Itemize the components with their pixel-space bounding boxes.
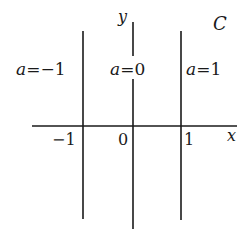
diagram-lines xyxy=(0,0,249,245)
region-label: C xyxy=(213,15,227,33)
param-value: −1 xyxy=(40,59,65,79)
tick-label-1: 1 xyxy=(184,132,194,148)
param-name: a xyxy=(186,59,196,79)
equals-sign: = xyxy=(120,59,134,79)
param-name: a xyxy=(110,59,120,79)
param-value: 0 xyxy=(134,59,145,79)
equals-sign: = xyxy=(196,59,210,79)
param-name: a xyxy=(16,59,26,79)
line-label-a-0: a=0 xyxy=(110,61,145,78)
y-axis-label: y xyxy=(118,9,127,25)
param-value: 1 xyxy=(210,59,221,79)
x-axis-label: x xyxy=(227,128,236,144)
equals-sign: = xyxy=(26,59,40,79)
line-label-a-1: a=1 xyxy=(186,61,221,78)
line-label-a-minus-1: a=−1 xyxy=(16,61,65,78)
tick-label-0: 0 xyxy=(118,132,128,148)
complex-plane-diagram: y C a=−1 a=0 a=1 −1 0 1 x xyxy=(0,0,249,245)
tick-label-minus-1: −1 xyxy=(52,132,76,148)
